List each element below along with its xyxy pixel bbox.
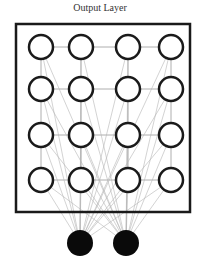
neural-network-diagram [0,0,200,270]
output-node [159,35,183,59]
input-nodes [67,230,139,256]
input-output-connections [41,47,171,243]
output-node [29,35,53,59]
connection-line [41,89,126,243]
output-node [69,123,93,147]
output-node [29,77,53,101]
output-node [29,123,53,147]
connection-line [126,89,171,243]
output-node [116,77,140,101]
connection-line [41,89,80,243]
output-node [159,168,183,192]
input-node [113,230,139,256]
output-node [69,168,93,192]
output-node [116,123,140,147]
input-node [67,230,93,256]
connection-line [81,89,126,243]
output-nodes [29,35,183,192]
output-node [116,35,140,59]
output-node [116,168,140,192]
output-node [69,77,93,101]
output-node [69,35,93,59]
output-node [159,123,183,147]
output-node [29,168,53,192]
output-node [159,77,183,101]
